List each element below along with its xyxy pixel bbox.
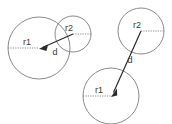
left-r2-label: r2 — [65, 23, 73, 33]
left-d-label: d — [52, 47, 57, 57]
right-r2-label: r2 — [133, 20, 141, 30]
panel-separated-circles: r2 r1 d — [83, 8, 164, 124]
right-r1-label: r1 — [95, 85, 103, 95]
panel-overlapping-circles: r1 r2 d — [8, 16, 91, 79]
circle-distance-diagram: r1 r2 d r2 r1 d — [0, 0, 172, 124]
right-d-label: d — [127, 55, 132, 65]
diagram-canvas: r1 r2 d r2 r1 d — [0, 0, 172, 124]
left-large-circle — [8, 17, 70, 79]
left-r1-label: r1 — [23, 37, 31, 47]
left-distance-arrowhead — [39, 45, 48, 51]
